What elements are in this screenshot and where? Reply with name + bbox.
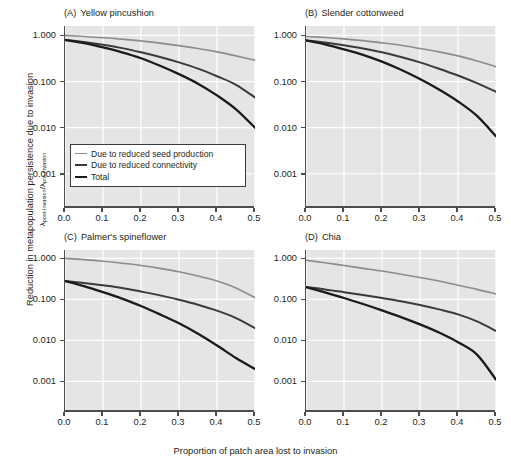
x-axis-tick-label: 0.4 — [451, 213, 464, 223]
x-axis-tick-label: 0.1 — [96, 213, 109, 223]
plot-area-d — [305, 250, 496, 410]
y-axis-tick — [60, 35, 64, 37]
panel-letter: (A) — [64, 8, 76, 18]
panel-title-b: (B)Slender cottonweed — [305, 8, 404, 18]
x-axis-tick-label: 0.4 — [210, 213, 223, 223]
x-axis-tick-label: 0.2 — [375, 213, 388, 223]
panel-title-c: (C)Palmer's spineflower — [64, 232, 166, 242]
plot-canvas — [306, 250, 496, 410]
x-axis-tick-label: 0.0 — [299, 213, 312, 223]
x-axis-tick-label: 0.3 — [172, 417, 185, 427]
panel-letter: (D) — [305, 232, 318, 242]
series-line — [65, 40, 255, 98]
figure-container: Reduction in metapopulation persistence … — [0, 0, 511, 461]
y-axis-tick — [60, 258, 64, 260]
plot-canvas — [306, 26, 496, 206]
lambda-post-subscript: post-invasion — [40, 189, 46, 222]
x-axis-tick — [215, 412, 217, 416]
series-line — [65, 281, 255, 369]
x-axis-tick — [253, 208, 255, 212]
x-axis-tick-label: 0.3 — [413, 417, 426, 427]
x-axis-tick-label: 0.2 — [134, 417, 147, 427]
y-axis-tick-label: 0.100 — [8, 77, 56, 87]
x-axis-tick — [304, 208, 306, 212]
y-axis-tick — [301, 35, 305, 37]
x-axis-tick — [101, 412, 103, 416]
y-axis-tick — [301, 258, 305, 260]
panel-species-name: Chia — [322, 232, 341, 242]
y-axis-tick — [301, 173, 305, 175]
legend: Due to reduced seed productionDue to red… — [70, 144, 246, 187]
x-axis-line — [305, 410, 495, 412]
x-axis-tick — [177, 412, 179, 416]
x-axis-tick — [456, 208, 458, 212]
x-axis-tick — [177, 208, 179, 212]
legend-item[interactable]: Due to reduced connectivity — [75, 160, 240, 172]
y-axis-label: Reduction in metapopulation persistence … — [25, 49, 48, 329]
x-axis-tick — [418, 412, 420, 416]
y-axis-tick — [301, 381, 305, 383]
legend-item[interactable]: Due to reduced seed production — [75, 148, 240, 160]
panel-title-d: (D)Chia — [305, 232, 341, 242]
y-axis-tick-label: 0.010 — [249, 335, 297, 345]
plot-area-b — [305, 26, 496, 206]
y-axis-tick — [301, 340, 305, 342]
x-axis-tick-label: 0.0 — [58, 417, 71, 427]
y-axis-tick — [60, 299, 64, 301]
x-axis-line — [64, 410, 254, 412]
y-axis-tick-label: 0.001 — [249, 169, 297, 179]
x-axis-tick — [215, 208, 217, 212]
y-axis-tick-label: 0.001 — [8, 169, 56, 179]
x-axis-tick-label: 0.3 — [413, 213, 426, 223]
x-axis-tick — [253, 412, 255, 416]
y-axis-label-line2: λpost-invasion/λpre-invasion — [37, 49, 47, 329]
panel-letter: (B) — [305, 8, 317, 18]
legend-item[interactable]: Total — [75, 171, 240, 183]
x-axis-tick — [494, 412, 496, 416]
x-axis-tick — [380, 412, 382, 416]
series-line — [306, 36, 496, 66]
series-line — [306, 260, 496, 294]
y-axis-tick-label: 0.010 — [249, 123, 297, 133]
y-axis-tick — [60, 381, 64, 383]
x-axis-tick — [456, 412, 458, 416]
legend-item-label: Due to reduced seed production — [91, 149, 213, 159]
legend-line-swatch — [75, 176, 87, 178]
x-axis-tick — [63, 208, 65, 212]
y-axis-tick-label: 1.000 — [249, 253, 297, 263]
x-axis-tick — [380, 208, 382, 212]
x-axis-tick — [494, 208, 496, 212]
lambda-pre-symbol: λ — [37, 183, 46, 187]
x-axis-tick — [342, 208, 344, 212]
y-axis-tick — [60, 173, 64, 175]
panel-letter: (C) — [64, 232, 77, 242]
y-axis-tick-label: 0.010 — [8, 335, 56, 345]
y-axis-tick-label: 1.000 — [249, 30, 297, 40]
series-line — [306, 40, 496, 91]
series-line — [306, 40, 496, 136]
legend-line-swatch — [75, 164, 87, 166]
y-axis-tick-label: 0.010 — [8, 123, 56, 133]
x-axis-tick-label: 0.2 — [375, 417, 388, 427]
y-axis-label-line1: Reduction in metapopulation persistence … — [25, 49, 37, 329]
panel-species-name: Palmer's spineflower — [81, 232, 166, 242]
panel-species-name: Yellow pincushion — [80, 8, 154, 18]
x-axis-tick-label: 0.1 — [96, 417, 109, 427]
y-axis-tick-label: 0.100 — [249, 77, 297, 87]
legend-item-label: Due to reduced connectivity — [91, 160, 197, 170]
x-axis-tick — [101, 208, 103, 212]
legend-line-swatch — [75, 153, 87, 154]
x-axis-tick-label: 0.0 — [58, 213, 71, 223]
x-axis-tick-label: 0.0 — [299, 417, 312, 427]
legend-item-label: Total — [91, 172, 109, 182]
x-axis-tick-label: 0.2 — [134, 213, 147, 223]
plot-canvas — [65, 250, 255, 410]
x-axis-label: Proportion of patch area lost to invasio… — [0, 446, 511, 456]
x-axis-tick — [304, 412, 306, 416]
y-axis-tick-label: 0.001 — [249, 376, 297, 386]
y-axis-tick-label: 0.001 — [8, 376, 56, 386]
x-axis-tick-label: 0.4 — [210, 417, 223, 427]
y-axis-tick-label: 0.100 — [249, 294, 297, 304]
series-line — [65, 258, 255, 297]
x-axis-tick-label: 0.5 — [489, 213, 502, 223]
